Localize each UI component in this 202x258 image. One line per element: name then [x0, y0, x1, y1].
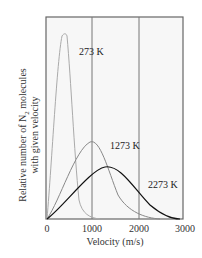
y-label-line2: with given velocity	[29, 96, 40, 173]
x-axis-label: Velocity (m/s)	[87, 236, 144, 248]
y-label-part1: Relative number of N	[17, 115, 28, 202]
label-273k: 273 K	[79, 46, 105, 57]
label-2273k: 2273 K	[148, 179, 179, 190]
y-label-part2: molecules	[17, 68, 28, 111]
x-tick-0: 0	[45, 223, 50, 234]
y-axis-label: Relative number of N2 molecules with giv…	[17, 68, 40, 202]
x-tick-2000: 2000	[129, 223, 149, 234]
x-tick-3000: 3000	[175, 223, 195, 234]
label-1273k: 1273 K	[110, 140, 141, 151]
x-tick-1000: 1000	[82, 223, 102, 234]
velocity-distribution-chart: 273 K 1273 K 2273 K 0 1000 2000 3000 Vel…	[0, 0, 202, 258]
